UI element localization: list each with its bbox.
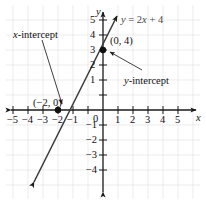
- y-tick-label--1: −1: [86, 120, 97, 131]
- point-y-intercept-marker: [100, 47, 106, 53]
- x-tick-label--1: −1: [67, 115, 78, 126]
- y-tick-label-2: 2: [90, 60, 95, 71]
- x-axis-label: x: [196, 113, 201, 124]
- x-tick-label-5: 5: [175, 115, 180, 126]
- equation-label: y = 2x + 4: [121, 15, 163, 26]
- point-label-x-intercept: (−2, 0): [33, 98, 62, 109]
- x-tick-label-2: 2: [130, 115, 135, 126]
- y-tick-label-5: 5: [90, 15, 95, 26]
- x-tick-label--3: −3: [37, 115, 48, 126]
- annotation-y-intercept-text: -intercept: [129, 75, 169, 86]
- y-intercept-leader: [110, 52, 142, 70]
- y-tick-label-1: 1: [90, 75, 95, 86]
- equation-constant: + 4: [147, 14, 163, 25]
- x-tick-label-3: 3: [145, 115, 150, 126]
- x-tick-label--5: −5: [7, 115, 18, 126]
- y-axis-label: y: [96, 7, 101, 18]
- y-tick-label-3: 3: [90, 45, 95, 56]
- equation-operator: = 2: [126, 14, 142, 25]
- x-intercept-leader: [42, 40, 62, 104]
- y-tick-label-4: 4: [90, 30, 95, 41]
- y-tick-label--2: −2: [86, 135, 97, 146]
- x-tick-label-4: 4: [160, 115, 165, 126]
- annotation-x-intercept: x-intercept: [13, 30, 58, 41]
- annotation-x-intercept-text: -intercept: [18, 29, 58, 40]
- graph-figure: y = 2x + 4 (0, 4) (−2, 0) x-intercept y-…: [0, 0, 206, 204]
- x-tick-label--4: −4: [22, 115, 33, 126]
- y-tick-label--4: −4: [86, 165, 97, 176]
- y-tick-label--3: −3: [86, 150, 97, 161]
- x-tick-label--2: −2: [52, 115, 63, 126]
- x-tick-label-1: 1: [115, 115, 120, 126]
- point-label-y-intercept: (0, 4): [110, 36, 133, 47]
- annotation-y-intercept: y-intercept: [124, 76, 169, 87]
